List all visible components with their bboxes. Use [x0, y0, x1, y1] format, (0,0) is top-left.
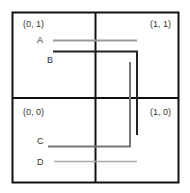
path-label-b: B: [47, 56, 53, 65]
quadrant-label-0-1: (0, 1): [23, 20, 44, 29]
quadrant-label-0-0: (0, 0): [23, 108, 44, 117]
quadrant-label-1-0: (1, 0): [150, 108, 171, 117]
quadrant-label-1-1: (1, 1): [150, 20, 171, 29]
path-label-c: C: [37, 137, 44, 146]
path-c: [48, 62, 130, 147]
path-label-d: D: [37, 158, 44, 167]
path-label-a: A: [37, 36, 43, 45]
